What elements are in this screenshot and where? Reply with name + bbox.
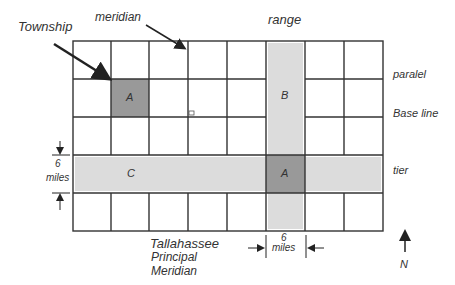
meridian-arrow-icon: [146, 25, 184, 48]
township-grid-diagram: [0, 0, 455, 285]
tier-strip: [75, 157, 381, 191]
grid-lines: [73, 41, 383, 231]
base-line-label: Base line: [393, 107, 438, 119]
tier-c-label: C: [127, 167, 135, 179]
six-label-left: 6: [55, 158, 61, 169]
range-b-label: B: [281, 89, 288, 101]
principal-meridian-line3: Meridian: [151, 264, 197, 278]
parallel-label: paralel: [393, 68, 426, 80]
north-label: N: [400, 258, 408, 270]
range-strip: [268, 43, 303, 229]
township-arrow-icon: [54, 44, 108, 78]
principal-meridian-line1: Tallahassee: [150, 236, 219, 251]
range-label: range: [268, 12, 301, 27]
meridian-label: meridian: [95, 10, 141, 24]
township-a-top-label: A: [126, 91, 133, 103]
small-square-marker: [189, 111, 194, 115]
township-a-center-label: A: [281, 167, 288, 179]
miles-label-bottom: miles: [272, 242, 295, 253]
tier-label: tier: [393, 164, 408, 176]
township-label: Township: [18, 19, 72, 34]
principal-meridian-line2: Principal: [151, 250, 197, 264]
miles-label-left: miles: [46, 172, 69, 183]
